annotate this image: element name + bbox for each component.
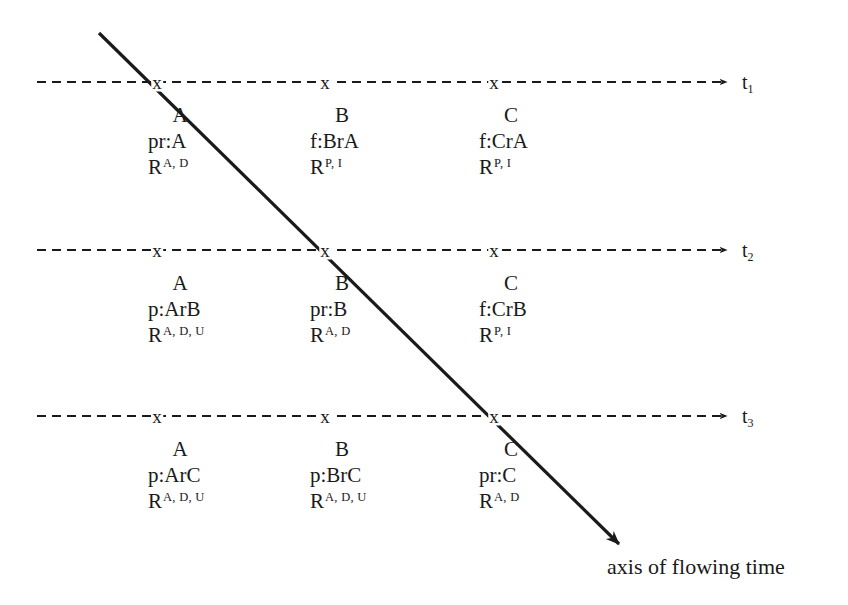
cell-t1-c-expression: f:CrA — [479, 129, 537, 155]
tick-mark-t1-b: x — [319, 73, 331, 92]
cell-t2-c-relation-base: R — [479, 323, 493, 347]
cell-t2-b-agent: B — [316, 272, 368, 294]
timeline-label-t1-base: t — [742, 71, 748, 93]
tick-mark-t1-c: x — [488, 73, 500, 92]
cell-t3-c-relation-superscript: A, D — [494, 490, 520, 504]
cell-t2-c-relation: RP, I — [479, 324, 537, 347]
cell-t1-c-relation-superscript: P, I — [494, 156, 511, 170]
cell-t2-a-agent: A — [154, 272, 206, 294]
tick-mark-t2-a: x — [151, 241, 163, 260]
cell-t2-c-agent: C — [485, 272, 537, 294]
timeline-label-t3-subscript: 3 — [748, 416, 754, 430]
cell-t3-c: C pr:C RA, D — [479, 438, 537, 513]
cell-t2-b-relation-base: R — [310, 323, 324, 347]
flowing-time-axis-caption: axis of flowing time — [607, 556, 785, 578]
cell-t3-b-agent: B — [316, 438, 368, 460]
tick-mark-t3-c: x — [488, 407, 500, 426]
cell-t3-c-expression: pr:C — [479, 463, 537, 489]
cell-t3-c-relation-base: R — [479, 489, 493, 513]
cell-t1-b-expression: f:BrA — [310, 129, 368, 155]
cell-t1-b-relation-base: R — [310, 155, 324, 179]
tick-mark-t2-b: x — [319, 241, 331, 260]
cell-t1-b-relation: RP, I — [310, 156, 368, 179]
cell-t3-a-relation-superscript: A, D, U — [163, 490, 205, 504]
cell-t1-c: C f:CrA RP, I — [479, 104, 537, 179]
cell-t2-a-relation-superscript: A, D, U — [163, 324, 205, 338]
cell-t1-a-relation-superscript: A, D — [163, 156, 189, 170]
cell-t1-c-relation-base: R — [479, 155, 493, 179]
diagram-canvas: x x x x x x x x x t1 t2 t3 A pr:A RA, D … — [0, 0, 848, 605]
cell-t1-a-relation: RA, D — [148, 156, 206, 179]
cell-t2-a-relation-base: R — [148, 323, 162, 347]
cell-t2-a: A p:ArB RA, D, U — [148, 272, 206, 347]
cell-t1-b: B f:BrA RP, I — [310, 104, 368, 179]
cell-t2-c-relation-superscript: P, I — [494, 324, 511, 338]
cell-t3-b-relation-base: R — [310, 489, 324, 513]
cell-t1-b-agent: B — [316, 104, 368, 126]
cell-t2-c-expression: f:CrB — [479, 297, 537, 323]
cell-t3-b: B p:BrC RA, D, U — [310, 438, 368, 513]
timeline-label-t2: t2 — [742, 240, 754, 260]
cell-t3-a-relation-base: R — [148, 489, 162, 513]
timeline-label-t2-base: t — [742, 239, 748, 261]
cell-t3-c-relation: RA, D — [479, 490, 537, 513]
cell-t2-c: C f:CrB RP, I — [479, 272, 537, 347]
cell-t1-a-relation-base: R — [148, 155, 162, 179]
cell-t1-a-expression: pr:A — [148, 129, 206, 155]
cell-t1-c-relation: RP, I — [479, 156, 537, 179]
tick-mark-t3-a: x — [151, 407, 163, 426]
cell-t2-b-relation: RA, D — [310, 324, 368, 347]
cell-t3-a-relation: RA, D, U — [148, 490, 206, 513]
tick-mark-t2-c: x — [488, 241, 500, 260]
cell-t3-b-expression: p:BrC — [310, 463, 368, 489]
timeline-label-t1-subscript: 1 — [748, 82, 754, 96]
cell-t1-a-agent: A — [154, 104, 206, 126]
cell-t1-b-relation-superscript: P, I — [325, 156, 342, 170]
cell-t3-a: A p:ArC RA, D, U — [148, 438, 206, 513]
timeline-label-t2-subscript: 2 — [748, 250, 754, 264]
tick-mark-t1-a: x — [151, 73, 163, 92]
cell-t3-b-relation-superscript: A, D, U — [325, 490, 367, 504]
cell-t3-c-agent: C — [485, 438, 537, 460]
cell-t1-a: A pr:A RA, D — [148, 104, 206, 179]
timeline-label-t1: t1 — [742, 72, 754, 92]
cell-t3-a-expression: p:ArC — [148, 463, 206, 489]
cell-t2-b-expression: pr:B — [310, 297, 368, 323]
cell-t2-b: B pr:B RA, D — [310, 272, 368, 347]
diagram-vector-layer — [0, 0, 848, 605]
cell-t2-a-expression: p:ArB — [148, 297, 206, 323]
cell-t3-a-agent: A — [154, 438, 206, 460]
tick-mark-t3-b: x — [319, 407, 331, 426]
cell-t2-a-relation: RA, D, U — [148, 324, 206, 347]
timeline-label-t3-base: t — [742, 405, 748, 427]
cell-t3-b-relation: RA, D, U — [310, 490, 368, 513]
timeline-label-t3: t3 — [742, 406, 754, 426]
cell-t1-c-agent: C — [485, 104, 537, 126]
cell-t2-b-relation-superscript: A, D — [325, 324, 351, 338]
